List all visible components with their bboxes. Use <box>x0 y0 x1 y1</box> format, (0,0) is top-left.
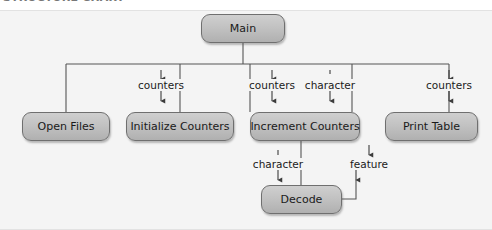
node-print-table[interactable]: Print Table <box>385 112 478 141</box>
node-print-table-label: Print Table <box>403 121 460 132</box>
node-initialize-counters-label: Initialize Counters <box>130 121 229 132</box>
node-decode[interactable]: Decode <box>261 185 342 214</box>
node-initialize-counters[interactable]: Initialize Counters <box>126 112 234 141</box>
node-decode-label: Decode <box>281 194 323 205</box>
edge-label-decode-feature: feature <box>348 158 390 170</box>
structure-chart-canvas: STRUCTURE CHART <box>0 0 492 230</box>
edge-label-print-counters: counters <box>424 79 474 91</box>
node-open-files[interactable]: Open Files <box>22 112 110 141</box>
edge-label-initialize-counters: counters <box>136 79 186 91</box>
node-main[interactable]: Main <box>201 14 285 43</box>
edge-label-increment-character: character <box>303 79 357 91</box>
node-increment-counters-label: Increment Counters <box>250 121 359 132</box>
edge-label-decode-character: character <box>251 158 305 170</box>
edge-label-increment-counters: counters <box>247 79 297 91</box>
node-main-label: Main <box>230 23 256 34</box>
node-increment-counters[interactable]: Increment Counters <box>250 112 360 141</box>
node-open-files-label: Open Files <box>37 121 94 132</box>
